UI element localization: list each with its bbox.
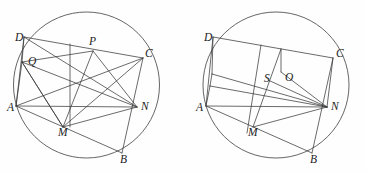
right-label-S: S (264, 72, 270, 84)
geometry-figure-page: D P C Q A N M B (0, 0, 367, 172)
left-segment-AB (16, 106, 122, 153)
left-label-Q: Q (28, 55, 37, 67)
left-label-A: A (6, 101, 15, 113)
left-label-P: P (88, 35, 96, 47)
right-label-C: C (336, 47, 344, 59)
right-label-O: O (285, 71, 294, 83)
right-figure: D C S O A N M B (195, 12, 349, 165)
right-label-M: M (247, 126, 259, 138)
right-segment-OM (253, 49, 281, 127)
left-segment-QA (16, 62, 22, 106)
left-figure: D P C Q A N M B (6, 12, 160, 165)
right-segment-VW (247, 45, 261, 133)
left-segment-DC (24, 37, 143, 58)
left-segment-PM (63, 51, 93, 127)
left-segment-QM2 (22, 62, 63, 127)
right-segment-AN (206, 106, 327, 107)
left-label-D: D (14, 31, 24, 43)
left-label-C: C (145, 47, 153, 59)
right-segment-DC (213, 37, 333, 58)
left-circle (14, 12, 160, 158)
left-label-M: M (57, 126, 69, 138)
right-segment-UN (210, 86, 327, 107)
diagram-canvas: D P C Q A N M B (0, 0, 367, 172)
right-label-D: D (203, 31, 213, 43)
right-label-A: A (195, 101, 204, 113)
right-segment-SN (268, 80, 327, 107)
right-segment-MN (253, 107, 327, 127)
right-segment-TU (210, 74, 212, 86)
right-label-B: B (310, 153, 317, 165)
left-segment-AN (16, 106, 137, 107)
right-segment-AB (206, 106, 312, 153)
right-label-N: N (330, 100, 340, 112)
left-label-N: N (140, 100, 150, 112)
left-label-B: B (120, 153, 127, 165)
